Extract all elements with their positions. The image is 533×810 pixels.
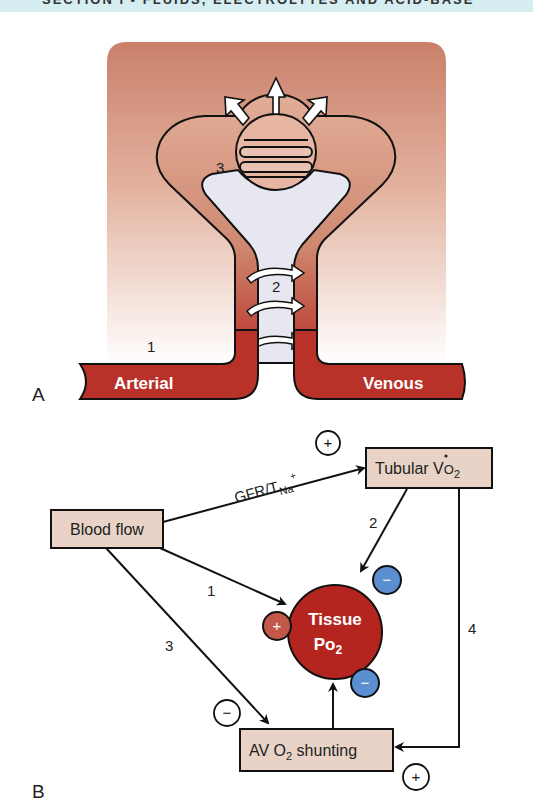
svg-text:−: − — [383, 571, 392, 588]
svg-text:GFR/TNa+: GFR/TNa+ — [232, 470, 301, 509]
svg-text:+: + — [412, 768, 421, 785]
vdot-icon — [444, 454, 447, 457]
marker-2: 2 — [272, 278, 280, 295]
path3-negative-sign: − — [214, 700, 240, 726]
edge-4-tubular-to-shunting — [396, 489, 459, 747]
tissue-po-sub: 2 — [336, 643, 343, 657]
tubular-main: Tubular V — [375, 460, 444, 477]
edge-3-bloodflow-to-shunting — [106, 548, 268, 723]
badge-negative-shunting: − — [351, 669, 379, 697]
svg-text:+: + — [324, 434, 333, 451]
badge-negative-tubular: − — [373, 566, 401, 594]
panel-b-label: B — [32, 781, 45, 802]
tissue-po-main: Po — [314, 635, 336, 654]
panel-b: GFR/TNa+ 1 2 3 4 + − + Blood flow Tubula — [32, 431, 492, 802]
edge-1-bloodflow-to-tissue — [160, 548, 285, 604]
node-av-o2-shunting: AV O2 shunting — [240, 729, 393, 771]
marker-3: 3 — [216, 159, 224, 176]
marker-1: 1 — [147, 338, 155, 355]
tubular-sub: 2 — [454, 468, 460, 480]
gfr-label-sup: + — [289, 470, 298, 482]
gfr-positive-sign: + — [316, 431, 340, 455]
panel-a: Arterial Venous 1 2 3 A — [32, 42, 465, 405]
figure-canvas: Arterial Venous 1 2 3 A GFR/TNa+ 1 2 3 4… — [0, 0, 533, 810]
edge-label-3: 3 — [165, 637, 173, 654]
edge-label-4: 4 — [468, 620, 476, 637]
gfr-label-sub: Na — [278, 482, 296, 497]
edge-label-2: 2 — [369, 514, 377, 531]
shunting-pre: AV O — [249, 742, 286, 759]
node-tissue-po2: Tissue Po2 — [288, 585, 382, 679]
node-blood-flow: Blood flow — [51, 510, 163, 548]
node-tubular-vo2: Tubular VO2 — [366, 448, 492, 488]
gfr-label-main: GFR/T — [232, 478, 280, 506]
arterial-label: Arterial — [114, 374, 174, 393]
striped-countercurrent-element — [236, 114, 316, 190]
svg-text:Tissue: Tissue — [308, 610, 362, 629]
panel-a-label: A — [32, 384, 45, 405]
svg-text:−: − — [223, 704, 232, 721]
tubular-o: O — [444, 462, 454, 477]
edge-label-1: 1 — [207, 582, 215, 599]
venous-label: Venous — [363, 374, 423, 393]
svg-text:−: − — [361, 674, 370, 691]
path4-positive-sign: + — [403, 764, 429, 790]
gfr-tna-label: GFR/TNa+ — [232, 470, 301, 509]
edge-2-tubular-to-tissue — [361, 489, 407, 571]
svg-text:+: + — [273, 617, 282, 634]
svg-text:Blood flow: Blood flow — [70, 521, 144, 538]
shunting-post: shunting — [292, 742, 357, 759]
badge-positive-bloodflow: + — [263, 612, 291, 640]
